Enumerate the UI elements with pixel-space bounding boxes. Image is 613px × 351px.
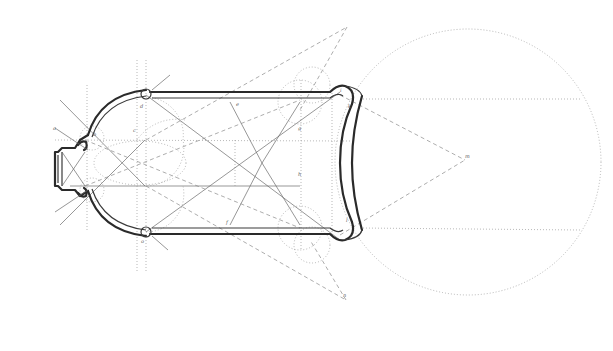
label-g: g <box>298 125 301 132</box>
label-m: m <box>465 153 470 159</box>
left-pedestal <box>55 128 88 212</box>
label-e: e <box>236 101 239 107</box>
large-construction-circle <box>335 29 601 295</box>
label-l: l <box>346 217 348 223</box>
label-b: b <box>93 131 96 137</box>
construction-drawing: a b c d e f g h i k l m n o <box>0 0 613 351</box>
label-h: h <box>298 171 301 177</box>
label-c: c <box>133 127 136 133</box>
label-i: i <box>340 87 342 93</box>
label-n: n <box>343 292 346 298</box>
label-d: d <box>140 103 143 109</box>
label-a: a <box>53 125 56 131</box>
point-labels: a b c d e f g h i k l m n o <box>53 87 470 298</box>
label-f: f <box>225 219 229 226</box>
label-k: k <box>348 103 351 109</box>
horizontal-guide-lines <box>55 99 580 230</box>
construction-triangles <box>146 27 465 300</box>
label-o: o <box>141 238 144 244</box>
